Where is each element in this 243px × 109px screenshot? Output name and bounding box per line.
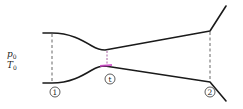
- nozzle-diagram: p0 T0 1 t 2: [0, 0, 243, 109]
- station-1-marker: 1: [50, 87, 60, 97]
- svg-text:t: t: [108, 75, 111, 84]
- upper-nozzle-wall: [43, 6, 226, 50]
- throat-highlight: [100, 65, 112, 66]
- svg-text:1: 1: [53, 88, 58, 97]
- inlet-pressure-label: p0: [7, 49, 17, 60]
- inlet-temperature-label: T0: [7, 60, 17, 71]
- lower-nozzle-wall: [43, 66, 226, 101]
- svg-text:2: 2: [208, 88, 213, 97]
- station-t-marker: t: [105, 74, 115, 84]
- station-2-marker: 2: [205, 87, 215, 97]
